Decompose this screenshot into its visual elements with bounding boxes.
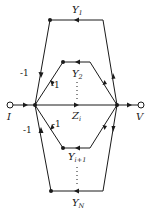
arrow-icon	[75, 146, 80, 151]
arrow-icon	[74, 189, 79, 194]
label-yi1: Yi+1	[68, 151, 86, 164]
arrow-icon	[74, 18, 79, 23]
label-yn: YN	[72, 197, 85, 210]
node	[48, 18, 52, 22]
arrow-icon	[74, 103, 79, 108]
node	[61, 60, 65, 64]
node-right	[115, 103, 119, 107]
arrow-icon	[39, 72, 44, 78]
node-left	[33, 103, 37, 107]
label-input: I	[6, 111, 12, 122]
arrow-icon	[23, 103, 28, 108]
label-y1: Y1	[72, 4, 83, 17]
arrow-icon	[127, 103, 132, 108]
arrow-icon	[75, 60, 80, 65]
gain-label: -1	[23, 125, 32, 135]
gain-label: -1	[52, 119, 61, 129]
node	[61, 146, 65, 150]
input-terminal	[7, 102, 13, 108]
gain-label: -1	[51, 80, 60, 90]
output-terminal	[138, 102, 144, 108]
label-y2: Y2	[72, 68, 83, 81]
arrow-icon	[112, 126, 116, 132]
node	[49, 189, 53, 193]
label-zi: Zi	[71, 110, 81, 123]
signal-flow-graph: Y1 Y2 Zi Yi+1 YN I V -1 -1 -1 -1	[0, 0, 147, 210]
gain-label: -1	[20, 68, 29, 78]
label-output: V	[136, 111, 145, 122]
